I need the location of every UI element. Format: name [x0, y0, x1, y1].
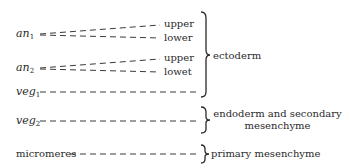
- ectoderm-brace: [201, 12, 210, 97]
- tier-an1-upper: upper: [164, 19, 194, 29]
- tier-an1-lower: lower: [164, 33, 192, 43]
- group-endoderm: endoderm and secondary mesenchyme: [210, 108, 345, 131]
- an2-upper-line: [40, 59, 160, 68]
- group-ectoderm: ectoderm: [213, 50, 261, 62]
- cell-micromeres: micromeres: [16, 149, 76, 159]
- tier-an2-upper: upper: [164, 53, 194, 63]
- cell-veg2: veg2: [16, 115, 40, 128]
- cell-veg1: veg1: [16, 86, 40, 99]
- cell-an2: an2: [16, 62, 34, 75]
- an2-lower-line: [40, 69, 160, 72]
- endoderm-brace: [201, 107, 210, 133]
- cell-an1: an1: [16, 28, 34, 41]
- endoderm-line2: mesenchyme: [210, 120, 345, 132]
- group-primary-mesenchyme: primary mesenchyme: [211, 148, 320, 160]
- an1-upper-line: [40, 25, 160, 34]
- endoderm-line1: endoderm and secondary: [210, 108, 345, 120]
- an1-lower-line: [40, 35, 160, 38]
- tier-an2-lower: lowet: [164, 67, 192, 77]
- primary-brace: [201, 145, 209, 163]
